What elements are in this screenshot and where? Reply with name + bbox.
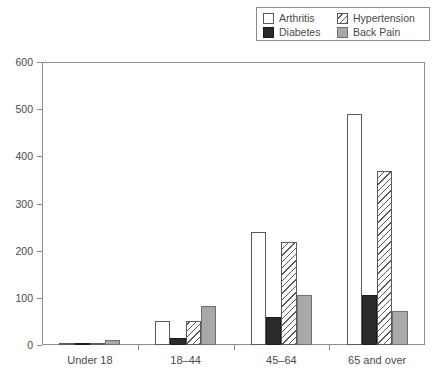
y-axis-tick-label: 600 xyxy=(15,57,33,68)
legend-swatch-hypertension xyxy=(337,13,348,24)
bar xyxy=(170,338,185,345)
y-axis-tick-label: 200 xyxy=(15,245,33,256)
bar xyxy=(266,317,281,345)
bar xyxy=(347,114,362,345)
legend-entry-hypertension[interactable]: Hypertension xyxy=(337,11,433,25)
legend-swatch-backpain xyxy=(337,27,348,38)
bar-chart: ArthritisHypertensionDiabetesBack Pain 0… xyxy=(0,0,438,377)
x-axis-tick xyxy=(234,345,235,350)
plot-area: 0100200300400500600Under 1818–4445–6465 … xyxy=(42,62,425,345)
x-axis-tick xyxy=(138,345,139,350)
y-axis-tick xyxy=(37,204,42,205)
legend-grid: ArthritisHypertensionDiabetesBack Pain xyxy=(263,11,424,39)
bar xyxy=(105,340,120,345)
bar xyxy=(201,306,216,345)
bar xyxy=(251,232,266,345)
y-axis-tick-label: 100 xyxy=(15,292,33,303)
y-axis-tick xyxy=(37,156,42,157)
legend-entry-diabetes[interactable]: Diabetes xyxy=(263,25,337,39)
y-axis-tick xyxy=(37,62,42,63)
bar xyxy=(281,242,296,345)
y-axis-tick xyxy=(37,251,42,252)
bar xyxy=(75,343,90,345)
y-axis-tick xyxy=(37,298,42,299)
y-axis-tick-label: 0 xyxy=(27,340,33,351)
legend-label: Back Pain xyxy=(353,27,400,38)
legend-label: Diabetes xyxy=(279,27,320,38)
legend-entry-arthritis[interactable]: Arthritis xyxy=(263,11,337,25)
bar xyxy=(59,343,74,345)
bar xyxy=(90,343,105,345)
legend-entry-back-pain[interactable]: Back Pain xyxy=(337,25,433,39)
x-axis-tick xyxy=(329,345,330,350)
bar xyxy=(297,295,312,345)
bar xyxy=(362,295,377,345)
y-axis-tick-label: 300 xyxy=(15,198,33,209)
y-axis-tick xyxy=(37,109,42,110)
bar xyxy=(377,171,392,345)
x-axis-tick-label: 65 and over xyxy=(348,354,406,366)
legend-swatch-diabetes xyxy=(263,27,274,38)
bar xyxy=(155,321,170,345)
legend-label: Hypertension xyxy=(353,13,415,24)
bar xyxy=(186,321,201,345)
y-axis-tick xyxy=(37,345,42,346)
legend-swatch-arthritis xyxy=(263,13,274,24)
legend-label: Arthritis xyxy=(279,13,315,24)
bar xyxy=(392,311,407,345)
x-axis-tick-label: Under 18 xyxy=(67,354,112,366)
chart-legend: ArthritisHypertensionDiabetesBack Pain xyxy=(256,7,430,41)
x-axis-tick-label: 45–64 xyxy=(266,354,297,366)
y-axis-tick-label: 400 xyxy=(15,151,33,162)
x-axis-tick-label: 18–44 xyxy=(170,354,201,366)
y-axis-tick-label: 500 xyxy=(15,104,33,115)
